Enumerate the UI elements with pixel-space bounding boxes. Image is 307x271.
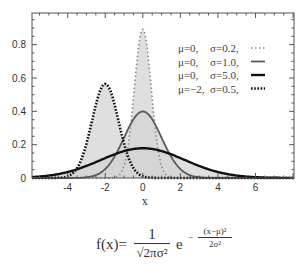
- legend-sigma: σ=1.0,: [210, 56, 239, 68]
- x-axis-title: x: [142, 194, 148, 208]
- y-tick-label: 0.6: [12, 73, 26, 84]
- formula-base-e: e: [176, 236, 183, 253]
- legend-item: μ=0,σ=1.0,: [178, 56, 265, 68]
- x-tick-label: -4: [63, 182, 72, 193]
- legend: μ=0,σ=0.2,μ=0,σ=1.0,μ=0,σ=5.0,μ=−2,σ=0.5…: [178, 42, 265, 95]
- legend-sigma: σ=5.0,: [210, 69, 239, 81]
- x-tick-labels: -4-20246: [63, 182, 258, 193]
- legend-item: μ=−2,σ=0.5,: [178, 83, 265, 95]
- x-tick-label: 6: [253, 182, 259, 193]
- exponent-denominator: 2σ²: [198, 239, 232, 249]
- fraction-bar: [134, 243, 170, 244]
- legend-item: μ=0,σ=5.0,: [178, 69, 265, 81]
- y-tick-label: 0.4: [12, 106, 26, 117]
- legend-sigma: σ=0.2,: [210, 42, 239, 54]
- exponent-fraction-bar: [198, 237, 232, 238]
- legend-item: μ=0,σ=0.2,: [178, 42, 265, 54]
- curve-fills: [32, 29, 294, 178]
- legend-sigma: σ=0.5,: [210, 83, 239, 95]
- exponent-sign: −: [188, 232, 193, 242]
- x-tick-label: 0: [140, 182, 146, 193]
- formula-fraction: 1 √2πσ²: [134, 226, 170, 261]
- x-tick-label: 4: [215, 182, 221, 193]
- legend-mu: μ=0,: [178, 69, 199, 81]
- formula-denominator: √2πσ²: [134, 245, 170, 261]
- formula-lhs: f(x)=: [96, 236, 127, 253]
- exponent-numerator: (x−μ)²: [198, 226, 232, 236]
- formula-numerator: 1: [134, 226, 170, 242]
- x-tick-label: 2: [178, 182, 184, 193]
- legend-mu: μ=0,: [178, 56, 199, 68]
- legend-mu: μ=−2,: [178, 83, 205, 95]
- curve-fill-2: [32, 148, 294, 178]
- normal-distribution-chart: -4-20246 00.20.40.60.8 x μ=0,σ=0.2,μ=0,σ…: [0, 0, 307, 220]
- y-tick-label: 0.8: [12, 39, 26, 50]
- y-tick-label: 0.2: [12, 139, 26, 150]
- x-tick-label: -2: [101, 182, 110, 193]
- y-tick-labels: 00.20.40.60.8: [12, 39, 26, 183]
- legend-mu: μ=0,: [178, 42, 199, 54]
- exponent-fraction: (x−μ)² 2σ²: [198, 226, 232, 249]
- y-tick-label: 0: [20, 173, 26, 184]
